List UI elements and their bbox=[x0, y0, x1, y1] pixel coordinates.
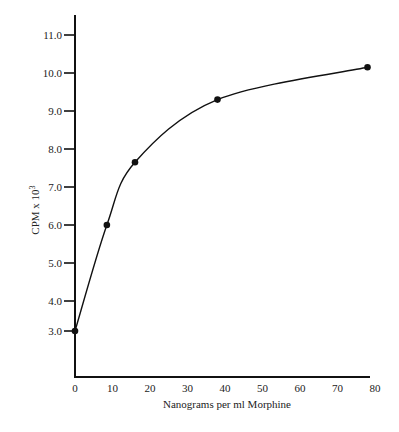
x-axis-ticks: 01020304050607080 bbox=[72, 382, 381, 394]
x-tick-label: 80 bbox=[370, 382, 382, 394]
data-curve bbox=[75, 67, 368, 331]
y-tick-label: 4.0 bbox=[48, 295, 62, 307]
y-axis-ticks: 3.04.05.06.07.08.09.010.011.0 bbox=[43, 29, 75, 337]
x-tick-label: 0 bbox=[72, 382, 78, 394]
y-tick-label: 5.0 bbox=[48, 257, 62, 269]
x-tick-label: 30 bbox=[182, 382, 194, 394]
x-axis: 01020304050607080 bbox=[72, 377, 381, 394]
y-tick-label: 11.0 bbox=[43, 29, 62, 41]
data-point bbox=[104, 222, 111, 229]
y-tick-label: 3.0 bbox=[48, 325, 62, 337]
x-tick-label: 20 bbox=[145, 382, 157, 394]
y-tick-label: 7.0 bbox=[48, 181, 62, 193]
x-axis-title: Nanograms per ml Morphine bbox=[163, 398, 291, 410]
data-point bbox=[132, 159, 139, 166]
data-point bbox=[214, 96, 221, 103]
x-tick-label: 10 bbox=[107, 382, 119, 394]
y-axis: 3.04.05.06.07.08.09.010.011.0 bbox=[43, 15, 75, 377]
x-tick-label: 60 bbox=[295, 382, 307, 394]
y-axis-title: CPM x 103 bbox=[28, 185, 41, 234]
y-tick-label: 10.0 bbox=[43, 67, 63, 79]
chart: 3.04.05.06.07.08.09.010.011.0 0102030405… bbox=[0, 0, 399, 432]
y-tick-label: 6.0 bbox=[48, 219, 62, 231]
x-tick-label: 40 bbox=[220, 382, 232, 394]
x-tick-label: 50 bbox=[257, 382, 269, 394]
y-tick-label: 8.0 bbox=[48, 143, 62, 155]
x-tick-label: 70 bbox=[332, 382, 344, 394]
data-point bbox=[364, 64, 371, 71]
data-point bbox=[72, 328, 79, 335]
y-tick-label: 9.0 bbox=[48, 105, 62, 117]
data-markers bbox=[72, 64, 371, 334]
